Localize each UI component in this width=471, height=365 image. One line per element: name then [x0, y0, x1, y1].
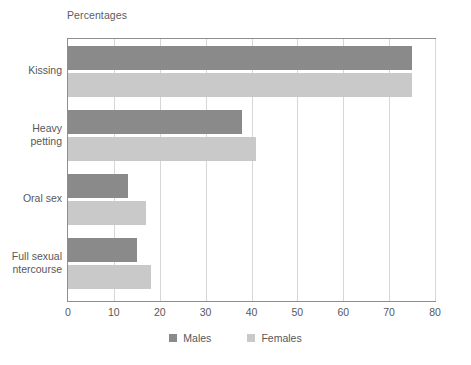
x-tick-30: 30 — [186, 306, 226, 318]
bar-males-2 — [68, 174, 128, 198]
x-tick-70: 70 — [369, 306, 409, 318]
bar-females-1 — [68, 137, 256, 161]
x-tick-60: 60 — [323, 306, 363, 318]
category-label-2: Oral sex — [0, 192, 62, 205]
bars-layer — [68, 39, 435, 301]
bar-females-2 — [68, 201, 146, 225]
bar-males-0 — [68, 46, 412, 70]
x-tick-50: 50 — [277, 306, 317, 318]
legend-item-females[interactable]: Females — [247, 332, 301, 344]
gridline-80 — [435, 39, 436, 301]
legend-label: Females — [261, 332, 301, 344]
x-tick-40: 40 — [232, 306, 272, 318]
legend-label: Males — [183, 332, 211, 344]
category-label-1: Heavy petting — [0, 122, 62, 148]
bar-males-1 — [68, 110, 242, 134]
category-label-0: Kissing — [0, 64, 62, 77]
x-tick-10: 10 — [94, 306, 134, 318]
bar-females-0 — [68, 73, 412, 97]
legend-item-males[interactable]: Males — [169, 332, 211, 344]
chart-title: Percentages — [67, 9, 127, 21]
legend-swatch-icon-females — [247, 334, 255, 342]
x-tick-80: 80 — [415, 306, 455, 318]
category-label-3: Full sexual ntercourse — [0, 250, 62, 276]
x-tick-20: 20 — [140, 306, 180, 318]
legend-swatch-icon-males — [169, 334, 177, 342]
chart-legend: MalesFemales — [0, 332, 471, 344]
percentages-bar-chart: Percentages KissingHeavy pettingOral sex… — [0, 0, 471, 365]
bar-females-3 — [68, 265, 151, 289]
plot-area — [67, 38, 436, 302]
x-tick-0: 0 — [48, 306, 88, 318]
bar-males-3 — [68, 238, 137, 262]
